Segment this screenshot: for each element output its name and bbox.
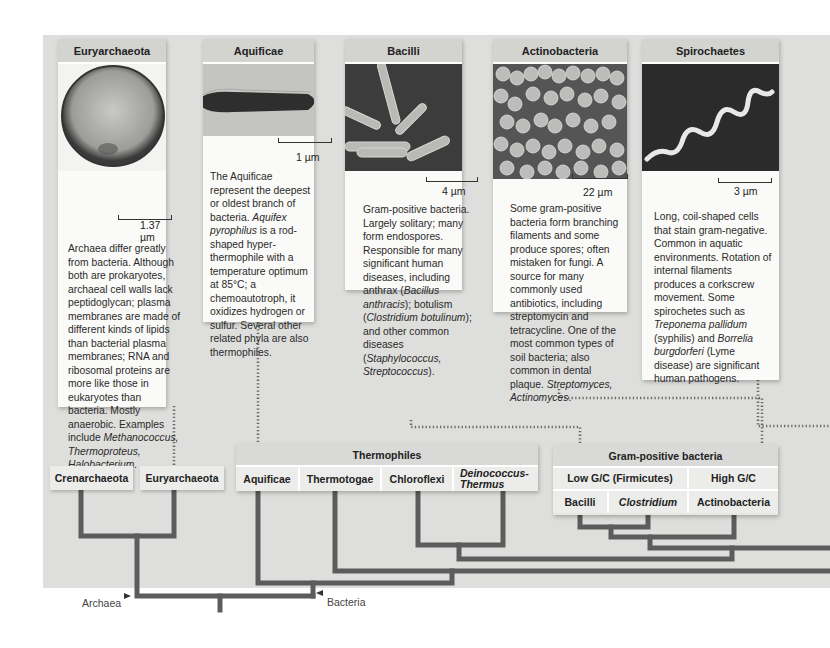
label-clostridium: Clostridium [609,491,689,513]
label-chloroflexi: Chloroflexi [382,467,454,491]
thermophiles-title: Thermophiles [236,444,538,467]
scale-bar-actinobacteria [572,174,628,179]
card-description-bacilli: Gram-positive bacteria. Largely solitary… [363,203,478,379]
card-title: Spirochaetes [642,39,779,64]
scale-bar-bacilli [426,177,478,182]
label-bacteria: Bacteria [327,596,366,608]
label-thermotogae: Thermotogae [300,467,382,491]
card-description-actinobacteria: Some gram-positive bacteria form branchi… [510,202,625,405]
scale-bar-spirochaetes [718,178,772,183]
scale-label: 1.37 µm [140,219,166,243]
bacteria-arrow-icon [316,590,323,596]
archaea-arrow-icon [124,593,131,599]
label-crenarchaeota: Crenarchaeota [50,466,133,490]
label-deinococcus-thermus: Deinococcus-Thermus [454,467,538,491]
phylogeny-diagram: Euryarchaeota 1.37 µm Archaea differ gre… [0,0,830,648]
card-title: Euryarchaeota [58,39,166,64]
label-high-gc: High G/C [689,468,778,489]
label-aquificae: Aquificae [236,467,300,491]
label-archaea: Archaea [82,597,121,609]
scale-label-aquificae: 1 µm [296,151,320,163]
euryarchaeota-micrograph [58,64,166,171]
actinobacteria-micrograph [493,64,627,179]
scale-label-bacilli: 4 µm [442,185,466,197]
scale-bar-aquificae [278,138,332,143]
label-bacilli: Bacilli [553,491,609,513]
gram-positive-title: Gram-positive bacteria [553,445,778,468]
aquificae-micrograph [203,64,314,136]
card-description: Archaea differ greatly from bacteria. Al… [68,242,183,472]
label-actinobacteria: Actinobacteria [689,491,778,513]
scale-label-actinobacteria: 22 µm [583,186,612,198]
scale-label-spirochaetes: 3 µm [734,185,758,197]
card-description-spirochaetes: Long, coil-shaped cells that stain gram-… [654,210,776,386]
card-title: Actinobacteria [493,39,627,64]
card-description-aquificae: The Aquificae represent the deepest or o… [210,170,318,359]
card-title: Bacilli [345,39,462,64]
label-low-gc: Low G/C (Firmicutes) [553,468,689,489]
thermophiles-group: Thermophiles Aquificae Thermotogae Chlor… [236,444,538,491]
card-euryarchaeota: Euryarchaeota 1.37 µm Archaea differ gre… [58,39,166,407]
gram-positive-group: Gram-positive bacteria Low G/C (Firmicut… [553,445,778,515]
spirochaetes-micrograph [642,64,779,171]
bacilli-micrograph [345,64,462,171]
card-title: Aquificae [203,39,314,64]
label-euryarchaeota: Euryarchaeota [140,466,224,490]
